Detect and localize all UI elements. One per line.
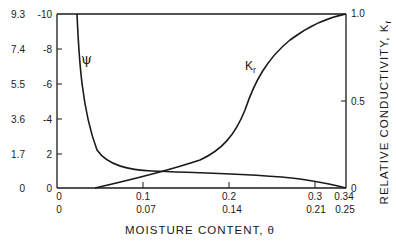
psi-label: ψ <box>81 51 92 67</box>
left-outer-tick-labels: 9.3 7.4 5.5 3.6 1.7 0 <box>11 9 25 194</box>
tick-label: 0.07 <box>136 204 156 215</box>
tick-label: 0 <box>56 191 62 202</box>
right-axis-title: RELATIVE CONDUCTIVITY, Kr <box>378 20 393 205</box>
left-ticks <box>57 49 62 154</box>
bottom-primary-tick-labels: 0 0.1 0.2 0.3 0.34 <box>56 191 354 202</box>
tick-label: 0.2 <box>222 191 236 202</box>
tick-label: 0.14 <box>222 204 242 215</box>
tick-label: 0.25 <box>335 204 355 215</box>
kr-curve <box>95 14 346 188</box>
bottom-secondary-tick-labels: 0 0.07 0.14 0.21 0.25 <box>56 204 355 215</box>
tick-label: 2 <box>46 149 52 160</box>
tick-label: 1.7 <box>11 149 25 160</box>
bottom-ticks <box>143 182 315 188</box>
right-axis-title-group: RELATIVE CONDUCTIVITY, Kr <box>378 20 393 205</box>
tick-label: 0 <box>56 204 62 215</box>
tick-label: 1.0 <box>351 8 365 19</box>
tick-label: -8 <box>43 44 52 55</box>
tick-label: 0 <box>46 183 52 194</box>
chart: -10 -8 -6 -4 2 0 9.3 7.4 5.5 3.6 1.7 0 1… <box>0 0 396 243</box>
psi-curve <box>77 14 346 188</box>
tick-label: 0.34 <box>334 191 354 202</box>
tick-label: 0 <box>19 183 25 194</box>
x-axis-title: MOISTURE CONTENT, θ <box>125 224 275 236</box>
tick-label: 0.1 <box>136 191 150 202</box>
tick-label: 7.4 <box>11 44 25 55</box>
tick-label: 5.5 <box>11 79 25 90</box>
tick-label: 0.5 <box>351 96 365 107</box>
tick-label: -10 <box>38 9 53 20</box>
left-inner-tick-labels: -10 -8 -6 -4 2 0 <box>38 9 53 194</box>
tick-label: -6 <box>43 79 52 90</box>
right-tick-labels: 1.0 0.5 0 <box>351 8 365 194</box>
tick-label: -4 <box>43 114 52 125</box>
tick-label: 3.6 <box>11 114 25 125</box>
tick-label: 9.3 <box>11 9 25 20</box>
tick-label: 0.3 <box>308 191 322 202</box>
tick-label: 0.21 <box>306 204 326 215</box>
kr-label: Kr <box>245 59 256 75</box>
